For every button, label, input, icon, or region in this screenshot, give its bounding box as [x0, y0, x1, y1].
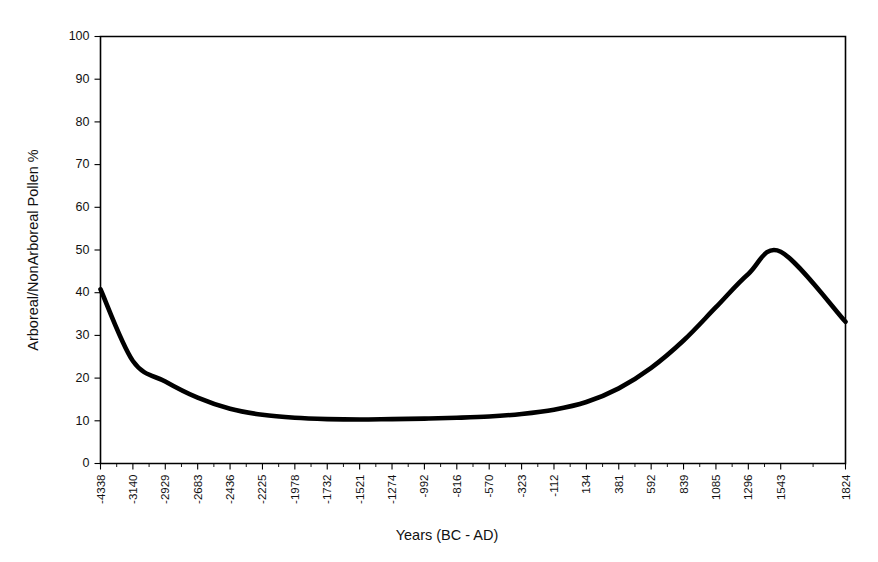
x-tick-label: 1085	[710, 475, 722, 501]
x-tick-label: 1543	[775, 475, 787, 501]
x-tick-label: 592	[645, 475, 657, 494]
y-tick-label: 90	[76, 72, 90, 86]
y-tick-label: 100	[69, 29, 90, 43]
x-tick-label: -323	[516, 475, 528, 498]
x-tick-label: 134	[580, 474, 592, 494]
y-tick-label: 20	[76, 371, 90, 385]
x-tick-label: -3140	[127, 475, 139, 504]
x-tick-label: -992	[418, 475, 430, 498]
y-tick-label: 80	[76, 115, 90, 129]
x-tick-label: -2225	[256, 475, 268, 504]
y-tick-label: 10	[76, 414, 90, 428]
x-tick-label: -570	[483, 475, 495, 498]
x-tick-label: -4338	[95, 475, 107, 504]
chart-canvas: 0102030405060708090100 -4338-3140-2929-2…	[0, 0, 878, 562]
x-tick-label: -1732	[321, 475, 333, 504]
x-tick-label: -1978	[289, 475, 301, 504]
x-tick-label: 381	[613, 475, 625, 494]
x-tick-label: -2929	[159, 475, 171, 504]
x-axis-title: Years (BC - AD)	[396, 527, 499, 543]
x-tick-label: -2683	[192, 475, 204, 504]
y-axis-title: Arboreal/NonArboreal Pollen %	[25, 149, 41, 351]
x-tick-label: -1274	[386, 474, 398, 504]
y-tick-label: 60	[76, 200, 90, 214]
x-tick-label: 1296	[742, 475, 754, 501]
y-tick-label: 0	[83, 456, 90, 470]
y-tick-label: 30	[76, 328, 90, 342]
x-tick-label: -816	[451, 475, 463, 498]
x-tick-label: 839	[678, 475, 690, 494]
x-tick-label: 1824	[840, 474, 852, 500]
y-tick-label: 40	[76, 285, 90, 299]
x-tick-label: -112	[548, 475, 560, 497]
x-tick-label: -1521	[354, 475, 366, 504]
x-tick-label: -2436	[224, 475, 236, 504]
pollen-line-chart: 0102030405060708090100 -4338-3140-2929-2…	[0, 0, 878, 562]
y-tick-label: 50	[76, 243, 90, 257]
y-tick-label: 70	[76, 157, 90, 171]
